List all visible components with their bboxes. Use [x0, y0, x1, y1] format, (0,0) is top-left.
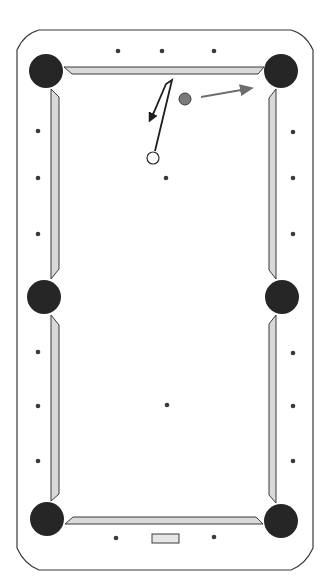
diamond-marker-right: [291, 351, 296, 356]
cushion-bottom: [65, 517, 263, 524]
pocket-top-left: [29, 54, 63, 88]
object-ball: [179, 93, 191, 105]
diamond-marker-left: [36, 459, 41, 464]
cushion-right-upper: [269, 89, 276, 279]
nameplate: [152, 534, 179, 543]
pocket-middle-left: [27, 280, 61, 314]
diamond-marker-top: [160, 49, 165, 54]
diamond-marker-right: [291, 459, 296, 464]
pocket-bottom-left: [30, 502, 64, 536]
cue-ball: [147, 152, 159, 164]
diamond-marker-bottom: [114, 536, 119, 541]
foot-spot: [164, 176, 169, 181]
diamond-marker-left: [36, 232, 41, 237]
diamond-marker-bottom: [212, 535, 217, 540]
diamond-marker-top: [116, 49, 121, 54]
pool-table-diagram: [0, 0, 330, 588]
diamond-marker-right: [291, 232, 296, 237]
cushion-top: [64, 67, 264, 74]
cushion-right-lower: [269, 315, 276, 503]
pocket-bottom-right: [264, 504, 298, 538]
pool-table-canvas: [0, 0, 330, 588]
diamond-marker-right: [291, 130, 296, 135]
diamond-marker-left: [36, 404, 41, 409]
pocket-middle-right: [265, 280, 299, 314]
diamond-marker-right: [291, 176, 296, 181]
diamond-marker-right: [291, 404, 296, 409]
head-spot: [165, 403, 170, 408]
cushion-left-lower: [51, 315, 59, 501]
diamond-marker-left: [36, 350, 41, 355]
diamond-marker-top: [212, 49, 217, 54]
pocket-top-right: [264, 54, 298, 88]
cushion-left-upper: [51, 89, 59, 279]
diamond-marker-left: [36, 176, 41, 181]
diamond-marker-left: [36, 129, 41, 134]
